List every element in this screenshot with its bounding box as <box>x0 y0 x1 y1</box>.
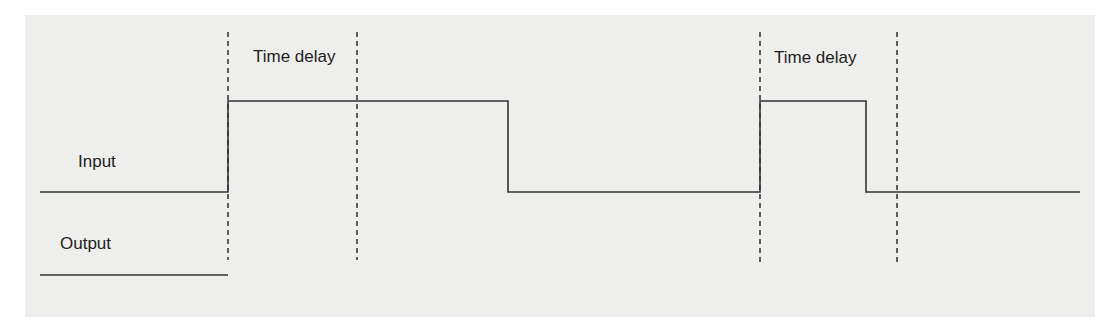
input-label: Input <box>78 152 116 172</box>
time-delay-label-2: Time delay <box>774 48 857 68</box>
time-delay-label-1: Time delay <box>253 47 336 67</box>
input-waveform <box>40 101 1080 192</box>
output-label: Output <box>60 234 111 254</box>
timing-diagram <box>0 0 1120 327</box>
